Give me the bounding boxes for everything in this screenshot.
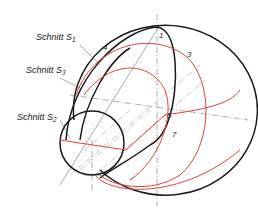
section-line-s2: [60, 140, 126, 150]
label-schnitt-s1: Schnitt S1: [36, 32, 76, 43]
construction-line: [80, 110, 150, 170]
intersection-curve-inner: [80, 48, 130, 140]
leader-line-s3: [60, 78, 80, 88]
point-label-4: 4: [103, 43, 108, 52]
point-label-5: 5: [167, 111, 172, 120]
point-label-7: 7: [172, 130, 177, 139]
section-curve-right: [165, 90, 240, 115]
label-schnitt-s2: Schnitt S2: [17, 112, 57, 123]
construction-line: [70, 65, 200, 175]
point-label-3: 3: [187, 50, 192, 59]
point-label-1: 1: [159, 31, 163, 40]
sphere-outline: [73, 25, 257, 195]
horizontal-center-axis: [70, 95, 248, 120]
label-schnitt-s3: Schnitt S3: [26, 65, 66, 76]
technical-drawing: Schnitt S1 Schnitt S3 Schnitt S2 1 3 4 5…: [0, 0, 258, 214]
